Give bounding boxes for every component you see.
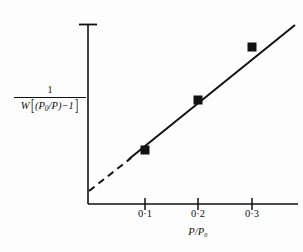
- y-axis-label-numerator: 1: [14, 84, 86, 96]
- y-axis-label: 1 W[(P0/P)−1]: [14, 84, 86, 113]
- right-bracket-glyph: ]: [75, 99, 78, 113]
- y-axis-label-denominator: W[(P0/P)−1]: [14, 99, 86, 113]
- data-point-marker: [194, 96, 203, 105]
- x-tick-label-3: 0·3: [235, 208, 269, 219]
- left-bracket-glyph: [: [31, 99, 34, 113]
- x-tick-label-2: 0·2: [181, 208, 215, 219]
- data-point-marker: [141, 146, 150, 155]
- extrapolation-dashed-line: [89, 158, 131, 191]
- x-axis-label: P/P₀: [168, 226, 228, 237]
- bet-plot-figure: 1 W[(P0/P)−1] 0·1 0·2 0·3 P/P₀: [0, 0, 303, 252]
- y-axis-label-denominator-prefix: W: [21, 100, 30, 112]
- y-axis-label-denominator-body: (P0/P)−1: [35, 100, 74, 113]
- x-tick-label-1: 0·1: [128, 208, 162, 219]
- data-point-marker: [248, 43, 257, 52]
- fit-line: [129, 25, 295, 159]
